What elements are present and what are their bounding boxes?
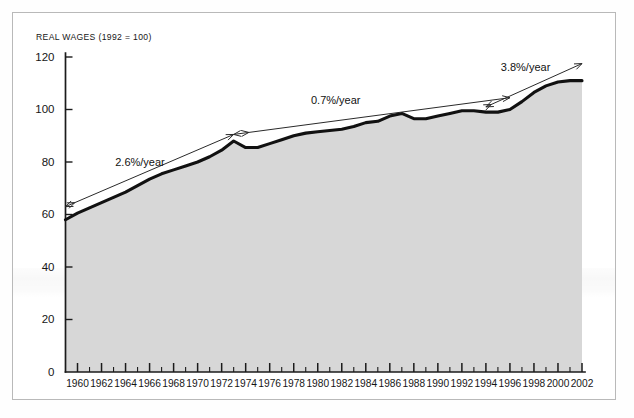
x-tick-label: 2000 — [547, 378, 570, 389]
x-tick-label: 1972 — [210, 378, 233, 389]
x-tick-label: 1978 — [282, 378, 305, 389]
trend-annotation-label-1: 2.6%/year — [115, 156, 165, 168]
x-tick-label: 1960 — [66, 378, 89, 389]
x-tick-label: 1964 — [114, 378, 137, 389]
x-tick-label: 1990 — [427, 378, 450, 389]
x-tick-label: 1962 — [90, 378, 113, 389]
real-wages-area-chart: 020406080100120 196019621964196619681970… — [0, 0, 634, 418]
x-tick-label: 1986 — [378, 378, 401, 389]
trend-annotation-label-3: 3.8%/year — [501, 61, 551, 73]
x-tick-label: 1974 — [234, 378, 257, 389]
y-tick-label: 0 — [48, 366, 54, 378]
y-tick-label: 100 — [35, 103, 54, 115]
chart-title: REAL WAGES (1992 = 100) — [36, 32, 152, 42]
y-tick-label: 60 — [42, 208, 55, 220]
x-tick-label: 1970 — [186, 378, 209, 389]
x-tick-label: 1976 — [258, 378, 281, 389]
y-tick-label: 20 — [42, 313, 55, 325]
x-tick-label: 1996 — [499, 378, 522, 389]
x-tick-label: 1998 — [523, 378, 546, 389]
y-tick-label: 80 — [42, 156, 55, 168]
x-tick-label: 2002 — [571, 378, 594, 389]
x-tick-label: 1988 — [403, 378, 426, 389]
x-tick-label: 1966 — [138, 378, 161, 389]
x-tick-label: 1984 — [354, 378, 377, 389]
x-tick-label: 1992 — [451, 378, 474, 389]
x-tick-label: 1982 — [330, 378, 353, 389]
y-tick-label: 40 — [42, 261, 55, 273]
chart-page: 020406080100120 196019621964196619681970… — [0, 0, 634, 418]
series-area-fill — [66, 81, 583, 372]
y-tick-label: 120 — [35, 51, 54, 63]
series-area-fill-group — [66, 81, 583, 372]
x-tick-label: 1980 — [306, 378, 329, 389]
x-tick-label: 1994 — [475, 378, 498, 389]
trend-annotation-label-2: 0.7%/year — [311, 94, 361, 106]
x-tick-label: 1968 — [162, 378, 185, 389]
